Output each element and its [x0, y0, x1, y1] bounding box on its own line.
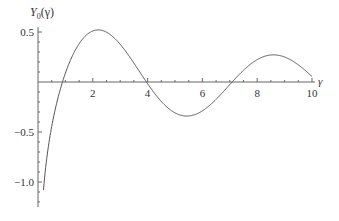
x-axis-label: γ: [318, 75, 323, 87]
y-tick-label: −1.0: [14, 176, 34, 188]
ticks: [38, 32, 312, 202]
x-tick-label: 2: [90, 87, 96, 99]
tick-labels: 2468100.5−0.5−1.0: [14, 26, 318, 188]
x-tick-label: 8: [254, 87, 260, 99]
y-tick-label: 0.5: [20, 26, 34, 38]
y-tick-label: −0.5: [14, 126, 34, 138]
x-tick-label: 4: [145, 87, 151, 99]
axes: [38, 27, 315, 207]
y0-curve: [43, 30, 312, 190]
x-tick-label: 6: [200, 87, 206, 99]
bessel-y0-chart: 2468100.5−0.5−1.0 Y0(γ) γ: [0, 0, 339, 221]
x-tick-label: 10: [307, 87, 319, 99]
y-axis-label: Y0(γ): [30, 5, 54, 21]
